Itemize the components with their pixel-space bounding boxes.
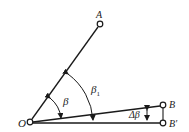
label-beta1: β1 [90,83,100,98]
label-B: B [169,99,175,110]
label-delta-beta: Δβ [128,109,140,120]
line-OB [33,106,160,122]
label-B-prime: B′ [169,118,178,129]
label-beta: β [62,95,69,107]
arc-beta1 [68,74,93,120]
point-O [27,119,33,125]
point-B [160,102,166,108]
point-B-prime [160,120,166,126]
point-A [97,21,103,27]
label-O: O [18,117,26,129]
label-A: A [95,9,103,20]
arc-beta [50,98,61,118]
angle-diagram: O A B B′ β β1 Δβ [0,0,189,132]
